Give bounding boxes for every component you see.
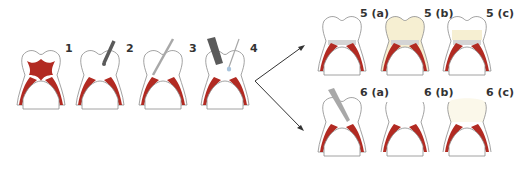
- arrow-head-up: [298, 45, 305, 51]
- tooth-step-5b: [380, 13, 430, 79]
- step-label-6c: 6 (c): [486, 86, 514, 99]
- tooth-step-5c: [442, 13, 492, 79]
- branch-arrows: [250, 40, 310, 140]
- step-label-3: 3: [189, 42, 197, 55]
- tooth-step-6c: [442, 94, 492, 160]
- tooth-step-3: [138, 47, 188, 113]
- step-label-1: 1: [65, 42, 73, 55]
- tooth-step-4: [200, 47, 250, 113]
- step-label-2: 2: [126, 42, 134, 55]
- tooth-step-5a: [317, 13, 367, 79]
- step-label-5c: 5 (c): [486, 7, 514, 20]
- tooth-step-6b: [380, 94, 430, 160]
- arrow-head-down: [297, 125, 304, 131]
- tooth-step-6a: [317, 94, 367, 160]
- tooth-step-1: [16, 47, 66, 113]
- dental-procedure-diagram: 1 2 3 4: [0, 0, 529, 169]
- tooth-step-2: [75, 47, 125, 113]
